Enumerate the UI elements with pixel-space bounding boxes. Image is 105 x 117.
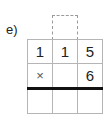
exercise-label: e) bbox=[6, 22, 18, 37]
cell-r1-c3: 5 bbox=[78, 40, 103, 64]
times-sign: × bbox=[28, 64, 53, 89]
cell-r1-c2: 1 bbox=[53, 40, 78, 64]
answer-cell-1[interactable] bbox=[28, 89, 53, 114]
cell-r2-c2 bbox=[53, 64, 78, 89]
cell-r1-c1: 1 bbox=[28, 40, 53, 64]
cell-r2-c3: 6 bbox=[78, 64, 103, 89]
multiplication-grid: 1 1 5 × 6 bbox=[27, 39, 103, 114]
carry-box[interactable] bbox=[52, 15, 78, 40]
answer-cell-2[interactable] bbox=[53, 89, 78, 114]
answer-cell-3[interactable] bbox=[78, 89, 103, 114]
